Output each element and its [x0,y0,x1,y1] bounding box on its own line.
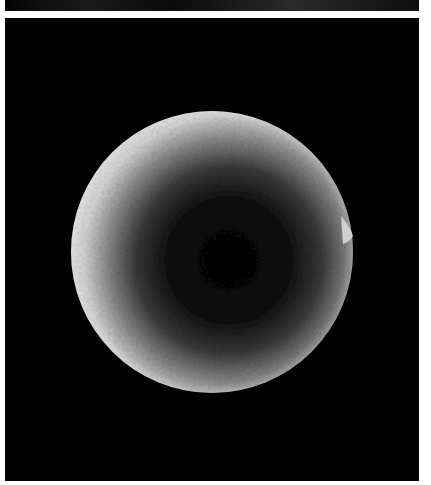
top-micrograph-strip [5,0,419,11]
sphere-particle [5,18,419,481]
sphere-micrograph [5,18,419,481]
